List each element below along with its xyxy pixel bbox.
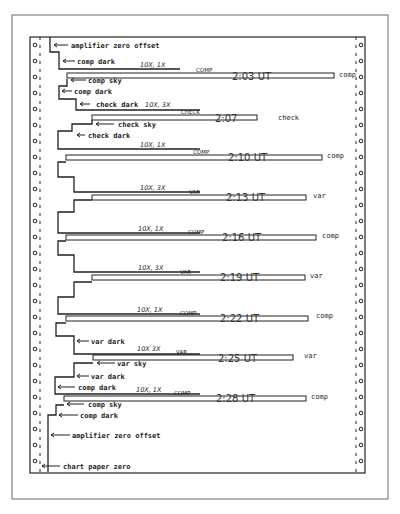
- bar-tag-8: VAR: [176, 349, 187, 355]
- gain-label-4: 10X, 3X: [140, 184, 166, 192]
- time-label-7: 2:22 UT: [220, 313, 260, 324]
- side-label-3: comp: [327, 152, 344, 160]
- strip-chart-figure: amplifier zero offset comp dark comp sky…: [0, 0, 400, 514]
- side-label-6: var: [310, 272, 323, 280]
- label-comp-dark-4: comp dark: [80, 412, 119, 420]
- gain-label-8: 10X 3X: [137, 345, 161, 353]
- side-label-5: comp: [322, 232, 339, 240]
- side-label-7: comp: [316, 312, 333, 320]
- bar-tag-7: COMP: [180, 310, 197, 316]
- label-comp-sky-2: comp sky: [88, 401, 123, 409]
- label-check-dark-2: check dark: [88, 132, 131, 140]
- label-comp-dark-3: comp dark: [78, 384, 117, 392]
- label-var-dark-1: var dark: [91, 338, 126, 346]
- label-amplifier-zero-offset-top: amplifier zero offset: [71, 42, 160, 50]
- gain-label-5: 10X, 1X: [138, 225, 164, 233]
- side-label-8: var: [304, 352, 317, 360]
- time-label-3: 2:10 UT: [228, 152, 268, 163]
- gain-label-1: 10X, 1X: [140, 61, 166, 69]
- bar-tag-1: COMP: [196, 67, 213, 73]
- side-label-2: check: [278, 114, 300, 122]
- label-check-sky: check sky: [118, 121, 157, 129]
- side-label-4: var: [313, 192, 326, 200]
- label-check-dark-1: check dark: [96, 101, 139, 109]
- gain-label-6: 10X, 3X: [138, 264, 164, 272]
- time-label-6: 2:19 UT: [220, 272, 260, 283]
- time-label-8: 2:25 UT: [218, 353, 258, 364]
- time-label-2: 2:07: [215, 113, 237, 124]
- time-label-5: 2:16 UT: [222, 232, 262, 243]
- gain-label-3: 10X, 1X: [140, 141, 166, 149]
- side-label-1: comp: [339, 71, 356, 79]
- label-var-sky: var sky: [117, 360, 147, 368]
- label-amplifier-zero-offset-bottom: amplifier zero offset: [72, 432, 161, 440]
- gain-label-9: 10X, 1X: [136, 386, 162, 394]
- bar-tag-5: COMP: [188, 229, 205, 235]
- gain-label-7: 10X, 1X: [137, 306, 163, 314]
- bar-tag-4: VAR: [189, 189, 200, 195]
- time-label-9: 2:28 UT: [216, 393, 256, 404]
- label-var-dark-2: var dark: [91, 373, 126, 381]
- bar-tag-6: VAR: [180, 269, 191, 275]
- chart-paper: [30, 37, 365, 473]
- bar-tag-9: COMP: [174, 390, 191, 396]
- side-label-9: comp: [311, 393, 328, 401]
- label-comp-dark-2: comp dark: [74, 88, 113, 96]
- gain-label-2: 10X, 3X: [145, 101, 171, 109]
- label-chart-paper-zero: chart paper zero: [63, 463, 130, 471]
- time-label-1: 2:03 UT: [232, 71, 272, 82]
- bar-tag-3: COMP: [193, 149, 210, 155]
- label-comp-dark-1: comp dark: [77, 58, 116, 66]
- bar-tag-2: CHECK: [181, 109, 200, 115]
- time-label-4: 2:13 UT: [226, 192, 266, 203]
- label-comp-sky-1: comp sky: [88, 77, 123, 85]
